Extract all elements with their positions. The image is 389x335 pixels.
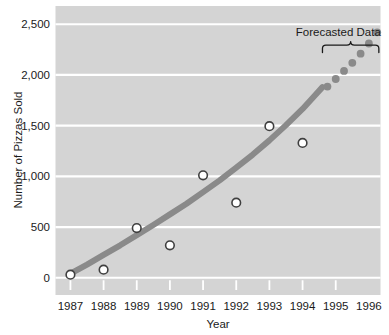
- data-point-1993: [265, 122, 274, 131]
- data-point-1989: [132, 224, 141, 233]
- x-tick-label-1989: 1989: [124, 300, 150, 312]
- pizza-sales-scatter-chart: 2,500 2,000 1,500 1,000 500 0 Number of …: [0, 0, 389, 335]
- x-tick-label-1987: 1987: [58, 300, 84, 312]
- forecast-dot-3: [340, 67, 348, 75]
- x-tick-label-1990: 1990: [157, 300, 183, 312]
- data-point-1992: [232, 198, 241, 207]
- forecast-annotation-label: Forecasted Data: [296, 26, 382, 38]
- forecast-dot-1: [324, 83, 332, 91]
- y-tick-label-2500: 2,500: [21, 18, 50, 30]
- x-tick-label-1995: 1995: [323, 300, 349, 312]
- data-point-1994: [298, 139, 307, 148]
- y-tick-label-500: 500: [31, 221, 50, 233]
- data-point-1988: [99, 265, 108, 274]
- x-tick-label-1992: 1992: [223, 300, 249, 312]
- y-tick-label-1500: 1,500: [21, 120, 50, 132]
- data-point-1987: [66, 270, 75, 279]
- x-axis-title: Year: [206, 318, 229, 330]
- chart-container: 2,500 2,000 1,500 1,000 500 0 Number of …: [0, 0, 389, 335]
- y-axis-title: Number of Pizzas Sold: [12, 92, 24, 209]
- data-point-1990: [166, 241, 175, 250]
- forecast-dot-5: [357, 50, 365, 58]
- x-tick-label-1988: 1988: [91, 300, 117, 312]
- x-tick-label-1994: 1994: [290, 300, 316, 312]
- data-point-1991: [199, 171, 208, 180]
- forecast-dot-4: [348, 59, 356, 67]
- forecast-dot-6: [365, 40, 373, 48]
- y-tick-label-0: 0: [44, 272, 50, 284]
- y-tick-label-2000: 2,000: [21, 69, 50, 81]
- x-tick-label-1993: 1993: [257, 300, 283, 312]
- x-tick-label-1991: 1991: [190, 300, 216, 312]
- y-tick-label-1000: 1,000: [21, 170, 50, 182]
- forecast-dot-2: [332, 75, 340, 83]
- x-tick-label-1996: 1996: [356, 300, 382, 312]
